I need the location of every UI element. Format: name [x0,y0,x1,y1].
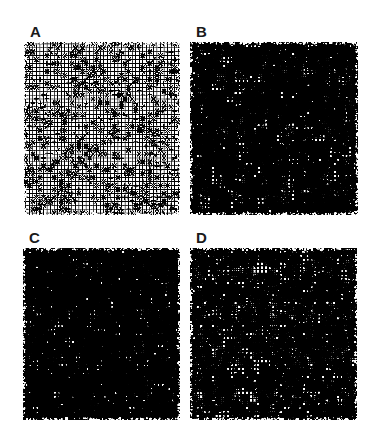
panel-c-label: C [29,230,40,245]
panel-d-plate [190,248,357,420]
panel-c-plate [23,248,180,420]
panel-b-label: B [196,24,207,39]
panel-a-label: A [30,24,41,39]
figure-canvas: A B C D [0,0,380,444]
panel-a-plate [24,42,180,215]
panel-b-plate [190,42,358,215]
panel-d-label: D [196,230,207,245]
